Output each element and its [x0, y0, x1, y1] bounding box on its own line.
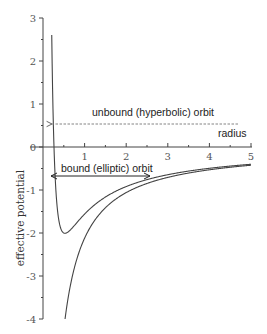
y-tick-label: -2 [26, 228, 36, 239]
x-tick-label: 1 [81, 151, 87, 162]
y-tick-label: 2 [30, 56, 36, 67]
x-axis-ticks: 12345 [64, 143, 254, 162]
bound-orbit-label: bound (elliptic) orbit [61, 162, 153, 174]
y-tick-label: 1 [30, 99, 36, 110]
effective-potential-chart: 3210-1-2-3-4 12345 unbound (hyperbolic) … [0, 0, 267, 334]
x-tick-label: 2 [123, 151, 129, 162]
x-axis-label: radius [218, 127, 247, 139]
x-tick-label: 3 [165, 151, 171, 162]
x-tick-label: 5 [248, 151, 254, 162]
x-tick-label: 4 [206, 151, 212, 162]
unbound-orbit-label: unbound (hyperbolic) orbit [92, 106, 214, 118]
gravitational-potential-curve [65, 165, 251, 319]
y-axis-ticks: 3210-1-2-3-4 [26, 13, 43, 325]
y-tick-label: -3 [26, 271, 36, 282]
y-tick-label: 3 [30, 13, 36, 24]
y-tick-label: 0 [30, 142, 36, 153]
y-axis-label: effective potential [14, 169, 26, 266]
y-tick-label: -1 [26, 185, 36, 196]
y-tick-label: -4 [26, 314, 36, 325]
